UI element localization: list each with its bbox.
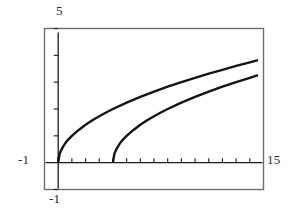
plot-figure: 5 -1 -1 15 xyxy=(0,0,296,216)
x-axis-min-label: -1 xyxy=(18,153,29,166)
y-axis-min-label: -1 xyxy=(49,192,60,205)
x-axis-max-label: 15 xyxy=(267,153,280,166)
y-axis-max-label: 5 xyxy=(56,4,63,17)
plot-canvas xyxy=(0,0,296,216)
